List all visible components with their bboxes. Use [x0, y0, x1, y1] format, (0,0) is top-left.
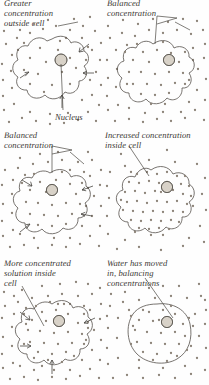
- panel-water-has-moved-in: Water has moved in, balancing concentrat…: [105, 256, 209, 385]
- panel-4-graphic: [105, 128, 209, 256]
- osmosis-figure: Greater concentration outside cell: [0, 0, 209, 385]
- solute-dots-inside: [23, 301, 89, 367]
- leader-line-2: [155, 16, 177, 44]
- nucleus-1: [55, 54, 67, 66]
- nucleus-label: Nucleus: [55, 112, 83, 122]
- leader-line-3: [52, 146, 72, 173]
- solute-dots-outside: [1, 151, 102, 249]
- panel-1-graphic: [0, 0, 105, 128]
- solute-dots-inside-dense: [120, 171, 194, 236]
- leader-line-1: [58, 22, 78, 26]
- solute-dots-inside: [124, 41, 186, 105]
- nucleus-6: [161, 316, 172, 327]
- panel-more-concentrated-solution-inside: More concentrated solution inside cell: [0, 256, 105, 385]
- panel-balanced-concentration-top: Balanced concentration: [105, 0, 209, 128]
- solute-dots-outside: [1, 16, 102, 125]
- leader-line-3b: [70, 152, 84, 164]
- nucleus-2: [163, 54, 174, 65]
- leader-line-6: [145, 278, 173, 318]
- leader-line-2b: [175, 22, 190, 30]
- nucleus-leader-1: [61, 64, 63, 110]
- solute-dots-inside: [21, 171, 83, 227]
- panel-greater-concentration-outside: Greater concentration outside cell: [0, 0, 105, 128]
- nucleus-5: [53, 315, 64, 326]
- water-flow-arrows-1: [20, 44, 94, 108]
- leader-line-5: [22, 286, 44, 326]
- cell-membrane-5: [15, 301, 92, 365]
- cell-membrane-2: [117, 41, 194, 104]
- panel-increased-concentration-inside: Increased concentration inside cell: [105, 128, 209, 256]
- panel-3-graphic: [0, 128, 105, 256]
- cell-membrane-3: [13, 170, 90, 234]
- nucleus-4: [161, 181, 172, 192]
- nucleus-3: [46, 184, 57, 195]
- cell-membrane-4: [116, 167, 194, 233]
- cell-membrane-1: [13, 36, 89, 99]
- cell-membrane-6: [128, 304, 191, 363]
- leader-line-4: [129, 146, 149, 176]
- panel-5-graphic: [0, 256, 105, 385]
- panel-balanced-concentration-middle: Balanced concentration: [0, 128, 105, 256]
- panel-2-graphic: [105, 0, 209, 128]
- solute-dots-outside: [1, 281, 102, 381]
- solute-dots-outside: [106, 283, 207, 379]
- solute-dots-inside: [23, 40, 77, 93]
- panel-6-graphic: [105, 256, 209, 385]
- solute-dots-inside: [130, 305, 190, 362]
- solute-dots-outside: [106, 149, 207, 251]
- solute-dots-outside: [106, 18, 207, 123]
